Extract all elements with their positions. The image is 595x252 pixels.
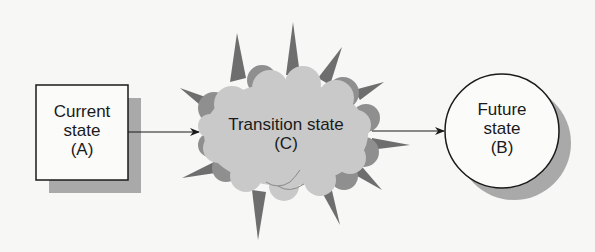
future-state-line1: Future: [452, 100, 552, 119]
transition-state-line1: Transition state: [206, 115, 366, 134]
future-state-line2: state: [452, 119, 552, 138]
transition-state-label: Transition state (C): [206, 115, 366, 153]
future-state-label: Future state (B): [452, 100, 552, 157]
current-state-label: Current state (A): [36, 102, 128, 159]
current-state-line1: Current: [36, 102, 128, 121]
transition-state-line2: (C): [206, 134, 366, 153]
current-state-line2: state: [36, 121, 128, 140]
future-state-line3: (B): [452, 138, 552, 157]
current-state-line3: (A): [36, 140, 128, 159]
